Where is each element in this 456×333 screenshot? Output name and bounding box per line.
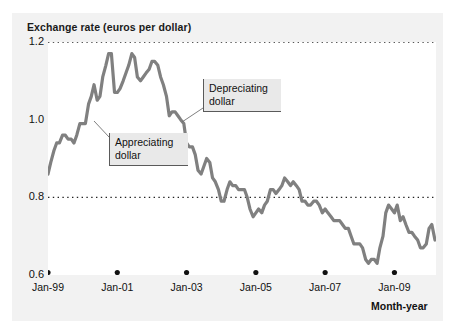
x-axis-tick-marker [323,270,328,275]
x-axis-tick-label: Jan-09 [378,281,410,293]
annotation-appreciating-dollar: Appreciating dollar [109,133,188,166]
x-axis-tick-marker [392,270,397,275]
y-axis-tick-label: 1.2 [0,35,44,47]
x-axis-tick-label: Jan-05 [240,281,272,293]
y-axis-labels: 0.60.81.01.2 [0,42,44,275]
plot-area [48,42,436,275]
x-axis-tick-label: Jan-01 [101,281,133,293]
x-axis-tick-label: Jan-03 [171,281,203,293]
x-axis-tick-marker [253,270,258,275]
x-axis-labels: Jan-99Jan-01Jan-03Jan-05Jan-07Jan-09 [48,281,436,297]
x-axis-tick-label: Jan-99 [32,281,64,293]
x-axis-tick-label: Jan-07 [309,281,341,293]
x-axis-title: Month-year [371,300,428,312]
gridlines-group [48,42,436,275]
y-axis-tick-label: 1.0 [0,113,44,125]
annotation-depreciating-dollar: Depreciating dollar [203,79,281,112]
chart-title: Exchange rate (euros per dollar) [27,21,191,33]
x-axis-tick-marker [48,270,51,275]
y-axis-tick-label: 0.8 [0,190,44,202]
x-axis-tick-marker [115,270,120,275]
x-axis-tick-marker [184,270,189,275]
chart-figure: Exchange rate (euros per dollar) 0.60.81… [0,0,456,333]
plot-svg [48,42,436,275]
y-axis-tick-label: 0.6 [0,268,44,280]
